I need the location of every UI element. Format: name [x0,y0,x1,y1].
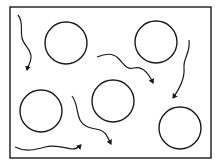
circle-4 [92,80,134,122]
diagram-canvas [0,0,218,167]
wavy-arrow-5 [15,145,81,150]
circles-group [20,21,201,149]
circle-5 [159,107,201,149]
circle-1 [45,22,87,64]
circle-3 [20,90,62,132]
wavy-arrow-1 [18,15,31,70]
wavy-arrow-2 [97,54,153,83]
container-frame [10,7,211,158]
circle-2 [135,21,177,63]
